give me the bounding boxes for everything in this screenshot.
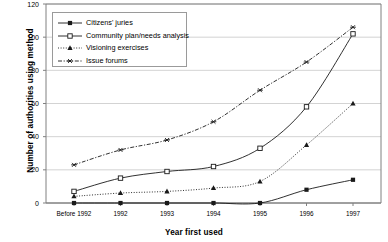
- data-point-filled-square: [72, 201, 76, 205]
- data-point-filled-triangle: [211, 185, 216, 190]
- data-point-open-square: [68, 33, 72, 37]
- legend-marker-icon: [57, 56, 83, 66]
- data-point-open-square: [165, 169, 169, 173]
- data-point-open-square: [72, 189, 76, 193]
- x-axis-title: Year first used: [0, 228, 388, 237]
- data-point-open-square: [351, 32, 355, 36]
- data-point-star: [257, 88, 263, 92]
- data-point-filled-triangle: [304, 142, 309, 147]
- series-0: [72, 178, 355, 205]
- data-point-star: [350, 25, 356, 29]
- data-point-filled-triangle: [118, 190, 123, 195]
- series-line: [74, 104, 353, 197]
- data-point-filled-square: [351, 178, 355, 182]
- data-point-star: [118, 148, 124, 152]
- legend-marker-icon: [57, 18, 83, 28]
- data-point-filled-square: [304, 188, 308, 192]
- data-point-open-square: [258, 146, 262, 150]
- legend-item: Citizens' juries: [57, 17, 133, 29]
- data-point-star: [71, 163, 77, 167]
- data-point-open-square: [304, 105, 308, 109]
- line-chart: Number of authorities using method 12010…: [0, 0, 388, 242]
- data-point-open-square: [118, 176, 122, 180]
- legend: Citizens' juriesCommunity plan/needs ana…: [52, 12, 187, 67]
- legend-item: Visioning exercises: [57, 42, 148, 54]
- series-2: [71, 101, 355, 199]
- data-point-filled-square: [118, 201, 122, 205]
- legend-label: Citizens' juries: [86, 19, 133, 27]
- data-point-filled-triangle: [164, 189, 169, 194]
- data-point-filled-square: [165, 201, 169, 205]
- series-line: [74, 180, 353, 204]
- data-point-filled-square: [68, 21, 72, 25]
- data-point-star: [211, 120, 217, 124]
- legend-item: Community plan/needs analysis: [57, 30, 189, 42]
- legend-marker-icon: [57, 31, 83, 41]
- data-point-filled-square: [258, 201, 262, 205]
- legend-marker-icon: [57, 43, 83, 53]
- legend-item: Issue forums: [57, 55, 128, 67]
- data-point-star: [67, 59, 73, 63]
- data-point-filled-triangle: [71, 194, 76, 199]
- data-point-star: [304, 60, 310, 64]
- legend-label: Visioning exercises: [86, 44, 148, 52]
- legend-label: Issue forums: [86, 57, 128, 65]
- legend-label: Community plan/needs analysis: [86, 32, 189, 40]
- data-point-filled-triangle: [257, 179, 262, 184]
- data-point-open-square: [211, 164, 215, 168]
- data-point-star: [164, 138, 170, 142]
- data-point-filled-square: [211, 201, 215, 205]
